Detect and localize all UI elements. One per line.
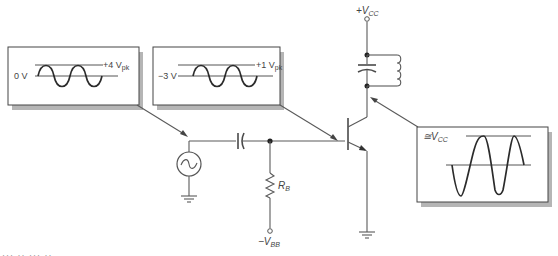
inset-source-waveform: 0 V +4 Vpk — [8, 47, 143, 110]
inset-collector-waveform: ≅VCC — [417, 127, 552, 207]
lc-tank: +VCC — [356, 5, 401, 93]
bias-supply-label: −VBB — [258, 236, 280, 248]
base-resistor: RB −VBB — [258, 141, 290, 248]
caption-fragment: ··· ·· ··· ·· — [2, 250, 52, 256]
resistor-label: RB — [278, 180, 290, 192]
supply-label: +VCC — [356, 5, 380, 17]
baseline-label: −3 V — [158, 71, 177, 81]
npn-transistor — [348, 93, 375, 238]
inset-base-waveform: −3 V +1 Vpk — [153, 47, 284, 110]
baseline-label: 0 V — [14, 71, 28, 81]
ac-source — [177, 141, 236, 202]
circuit-diagram: 0 V +4 Vpk −3 V +1 Vpk ≅VCC — [0, 0, 558, 256]
